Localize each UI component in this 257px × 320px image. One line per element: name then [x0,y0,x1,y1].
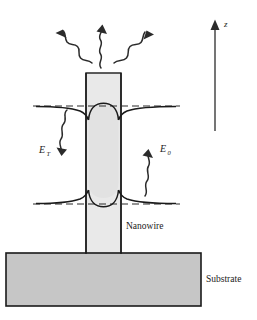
nanowire-mode-core [89,104,119,199]
transmitted-field-arrow [57,110,68,156]
nanowire-label: Nanowire [126,221,163,231]
upper-left-wave-arrow [56,30,93,64]
nanowire-schematic-svg: E T E 0 z Nanowire Substrate [0,0,257,320]
z-axis-arrow [211,20,220,132]
upper-left-field-profile-curve [36,107,89,121]
incident-field-arrow [143,149,154,196]
z-axis-label: z [223,19,228,29]
substrate-body [6,253,201,306]
upper-right-wave-arrow [114,31,154,64]
figure-root: E T E 0 z Nanowire Substrate [0,0,257,320]
lower-left-field-profile-curve [36,190,89,204]
substrate-label: Substrate [206,274,241,284]
lower-right-field-profile-curve [119,190,177,204]
upper-right-field-profile-curve [119,107,177,121]
nanowire-group [86,73,121,255]
incident-field-label-subscript: 0 [168,149,172,156]
transmitted-field-label: E [38,144,45,155]
incident-field-label: E [159,143,166,154]
transmitted-field-label-subscript: T [47,150,51,157]
substrate-group [6,253,201,306]
upper-center-wave-arrow [97,25,108,69]
